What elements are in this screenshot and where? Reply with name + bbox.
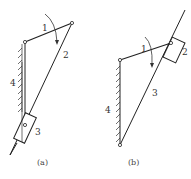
pivot-b-frame-bottom xyxy=(118,143,121,146)
label-1-a: 1 xyxy=(42,23,48,33)
label-1-b: 1 xyxy=(141,44,147,54)
pivot-a-slider xyxy=(23,123,26,126)
mechanism-diagram: 1 2 3 4 (a) 1 2 3 4 xyxy=(0,0,191,179)
slider-3-a xyxy=(14,113,37,143)
caption-b: (b) xyxy=(128,158,139,167)
pivot-b-frame-top xyxy=(118,58,121,61)
pivot-b-crank-tip xyxy=(169,41,172,44)
pivot-a-frame xyxy=(23,40,26,43)
pivot-a-crank-tip xyxy=(70,21,73,24)
label-4-b: 4 xyxy=(105,105,111,115)
label-3-a: 3 xyxy=(35,127,41,137)
label-2-a: 2 xyxy=(63,50,69,60)
label-3-b: 3 xyxy=(152,88,158,98)
figure-a: 1 2 3 4 (a) xyxy=(10,14,74,167)
link-3-b xyxy=(120,10,185,145)
frame-4-hatching xyxy=(18,44,22,112)
caption-a: (a) xyxy=(37,158,48,167)
label-4-a: 4 xyxy=(10,78,16,88)
label-2-b: 2 xyxy=(182,47,188,57)
